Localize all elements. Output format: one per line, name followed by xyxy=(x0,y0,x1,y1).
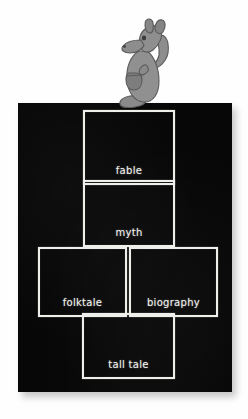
genre-box-myth[interactable]: myth xyxy=(83,180,175,247)
genre-label-myth: myth xyxy=(115,228,142,245)
genre-box-folktale[interactable]: folktale xyxy=(38,247,127,317)
genre-box-tall-tale[interactable]: tall tale xyxy=(82,313,175,379)
chalkboard-panel: fable myth folktale biography tall tale xyxy=(18,103,232,392)
kangaroo-nose xyxy=(123,45,126,48)
genre-box-biography[interactable]: biography xyxy=(129,247,218,317)
image-canvas: fable myth folktale biography tall tale xyxy=(0,0,248,419)
genre-box-fable[interactable]: fable xyxy=(83,110,175,185)
kangaroo-eye xyxy=(142,36,146,41)
kangaroo-icon xyxy=(108,18,178,113)
genre-label-tall-tale: tall tale xyxy=(108,360,148,377)
